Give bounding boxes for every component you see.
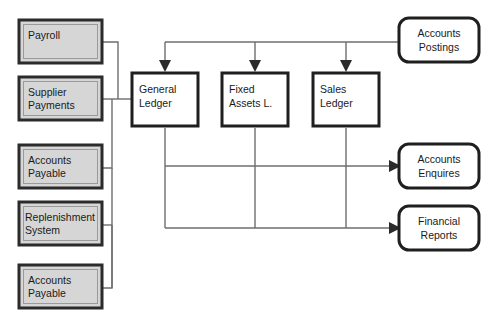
output-label-accounts-enquires-line2: Enquires bbox=[418, 167, 459, 179]
arrowhead-postings-sales-ledger bbox=[340, 60, 352, 72]
source-label-supplier-payments-line2: Payments bbox=[28, 99, 75, 111]
source-node-supplier-payments[interactable]: Supplier Payments bbox=[19, 77, 102, 120]
source-box-payroll[interactable] bbox=[19, 20, 102, 63]
output-label-financial-reports-line2: Reports bbox=[421, 229, 458, 241]
output-label-financial-reports-line1: Financial bbox=[418, 215, 460, 227]
source-label-accounts-payable-1-line2: Payable bbox=[28, 167, 66, 179]
output-node-accounts-postings[interactable]: Accounts Postings bbox=[399, 18, 479, 62]
output-label-accounts-postings-line2: Postings bbox=[419, 41, 459, 53]
source-label-supplier-payments-line1: Supplier bbox=[28, 86, 67, 98]
output-node-accounts-enquires[interactable]: Accounts Enquires bbox=[399, 144, 479, 188]
source-label-accounts-payable-2-line1: Accounts bbox=[28, 274, 71, 286]
source-node-payroll[interactable]: Payroll bbox=[19, 20, 102, 63]
arrowhead-postings-general-ledger bbox=[159, 60, 171, 72]
ledger-node-sales-ledger[interactable]: Sales Ledger bbox=[313, 73, 379, 126]
ledger-label-fixed-assets-line1: Fixed bbox=[229, 83, 255, 95]
output-box-accounts-postings[interactable] bbox=[399, 18, 479, 62]
ledger-label-general-ledger-line2: Ledger bbox=[139, 97, 172, 109]
output-label-accounts-postings-line1: Accounts bbox=[417, 27, 460, 39]
source-node-replenishment-system[interactable]: Replenishment System bbox=[19, 202, 102, 245]
diagram-svg: Payroll Supplier Payments Accounts Payab… bbox=[0, 0, 498, 326]
output-box-financial-reports[interactable] bbox=[399, 206, 479, 250]
source-label-replenishment-system-line2: System bbox=[25, 224, 60, 236]
source-node-accounts-payable-2[interactable]: Accounts Payable bbox=[19, 265, 102, 308]
ledger-node-general-ledger[interactable]: General Ledger bbox=[132, 73, 198, 126]
output-box-accounts-enquires[interactable] bbox=[399, 144, 479, 188]
ledger-node-fixed-assets-ledger[interactable]: Fixed Assets L. bbox=[222, 73, 288, 126]
output-label-accounts-enquires-line1: Accounts bbox=[417, 153, 460, 165]
diagram-canvas: Payroll Supplier Payments Accounts Payab… bbox=[0, 0, 498, 326]
ledger-label-sales-ledger-line2: Ledger bbox=[320, 97, 353, 109]
ledger-label-general-ledger-line1: General bbox=[139, 83, 176, 95]
ledger-label-fixed-assets-line2: Assets L. bbox=[229, 97, 272, 109]
source-label-replenishment-system-line1: Replenishment bbox=[25, 211, 95, 223]
source-node-accounts-payable-1[interactable]: Accounts Payable bbox=[19, 145, 102, 188]
ledger-label-sales-ledger-line1: Sales bbox=[320, 83, 346, 95]
source-label-payroll-line1: Payroll bbox=[28, 29, 60, 41]
output-node-financial-reports[interactable]: Financial Reports bbox=[399, 206, 479, 250]
source-label-accounts-payable-1-line1: Accounts bbox=[28, 154, 71, 166]
arrowhead-postings-fixed-assets bbox=[249, 60, 261, 72]
connector-payroll-to-bus bbox=[102, 42, 118, 99]
source-label-accounts-payable-2-line2: Payable bbox=[28, 287, 66, 299]
